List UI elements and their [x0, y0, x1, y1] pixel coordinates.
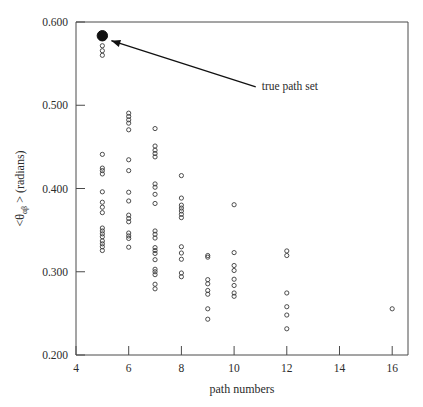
data-point: [100, 200, 104, 204]
y-axis-title: <θαβ > (radians): [13, 150, 29, 226]
data-point: [206, 317, 210, 321]
y-tick-label: 0.200: [42, 349, 68, 361]
x-tick-label: 4: [73, 362, 79, 374]
data-point: [153, 258, 157, 262]
data-point: [285, 253, 289, 257]
data-point: [100, 235, 104, 239]
annotation-arrowhead: [111, 40, 121, 47]
data-point: [127, 199, 131, 203]
data-point: [285, 327, 289, 331]
x-tick-label: 12: [281, 362, 293, 374]
data-point-true-path-set: [97, 31, 107, 41]
x-tick-label: 14: [334, 362, 346, 374]
data-point: [232, 263, 236, 267]
data-point: [100, 152, 104, 156]
data-point: [179, 251, 183, 255]
data-point: [179, 174, 183, 178]
data-point: [285, 291, 289, 295]
x-tick-label: 16: [386, 362, 398, 374]
data-point: [179, 257, 183, 261]
data-point: [100, 53, 104, 57]
data-point: [153, 192, 157, 196]
data-point: [153, 282, 157, 286]
annotation-arrow-line: [111, 41, 255, 87]
data-point: [127, 158, 131, 162]
data-point: [127, 190, 131, 194]
data-point: [285, 313, 289, 317]
y-tick-label: 0.600: [42, 16, 68, 28]
y-tick-label: 0.500: [42, 99, 68, 111]
data-point: [100, 190, 104, 194]
data-point: [390, 307, 394, 311]
data-point: [153, 273, 157, 277]
annotation-label: true path set: [262, 80, 319, 93]
data-point: [153, 201, 157, 205]
data-point: [100, 211, 104, 215]
x-axis-title: path numbers: [210, 382, 275, 396]
data-point: [153, 287, 157, 291]
data-point: [232, 251, 236, 255]
data-point: [127, 245, 131, 249]
data-point: [179, 196, 183, 200]
data-point: [153, 126, 157, 130]
scatter-plot-figure: 0.2000.3000.4000.5000.60046810121416path…: [0, 0, 423, 407]
data-point: [100, 205, 104, 209]
data-point: [285, 305, 289, 309]
data-point: [127, 128, 131, 132]
data-point: [285, 249, 289, 253]
y-tick-label: 0.400: [42, 183, 68, 195]
axis-frame-box: [76, 22, 408, 355]
data-point: [232, 283, 236, 287]
axis-frame-main: [76, 22, 408, 355]
data-point: [100, 44, 104, 48]
data-point: [100, 49, 104, 53]
data-point: [206, 282, 210, 286]
data-point: [232, 268, 236, 272]
plot-canvas: 0.2000.3000.4000.5000.60046810121416path…: [0, 0, 423, 407]
y-tick-label: 0.300: [42, 266, 68, 278]
x-tick-label: 6: [126, 362, 132, 374]
data-point: [127, 169, 131, 173]
data-point: [206, 307, 210, 311]
data-point: [179, 245, 183, 249]
data-point: [232, 203, 236, 207]
data-point: [206, 278, 210, 282]
x-tick-label: 8: [179, 362, 185, 374]
data-point: [153, 144, 157, 148]
x-tick-label: 10: [228, 362, 240, 374]
data-point: [232, 277, 236, 281]
data-point: [153, 251, 157, 255]
